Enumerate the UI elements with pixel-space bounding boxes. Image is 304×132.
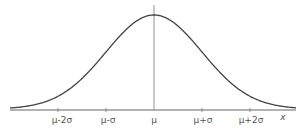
tick-label-mu-minus-2sigma: μ-2σ	[52, 115, 72, 125]
normal-curve-diagram	[0, 0, 304, 132]
tick-label-mu-plus-2sigma: μ+2σ	[239, 115, 264, 125]
x-axis-label: x	[280, 112, 285, 122]
tick-label-mu-plus-sigma: μ+σ	[194, 115, 213, 125]
tick-label-mu: μ	[151, 115, 157, 125]
tick-label-mu-minus-sigma: μ-σ	[101, 115, 116, 125]
bell-curve	[10, 15, 296, 108]
